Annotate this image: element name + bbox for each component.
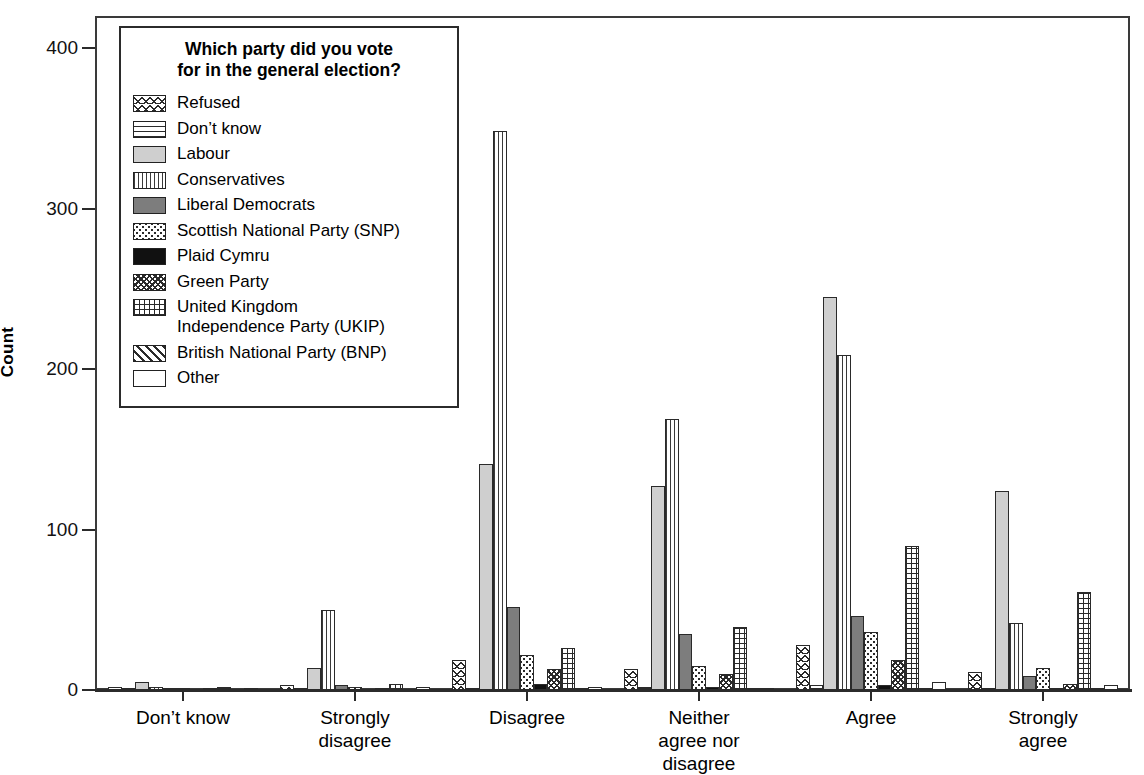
legend-title: Which party did you vote for in the gene… (133, 39, 445, 81)
legend-item[interactable]: Plaid Cymru (133, 246, 445, 266)
legend-item-label: Green Party (177, 272, 269, 292)
y-tick-label: 100 (0, 519, 78, 541)
legend-item-label: British National Party (BNP) (177, 343, 387, 363)
x-tick-mark (870, 690, 872, 701)
legend-item-label: Conservatives (177, 170, 285, 190)
y-tick-label: 200 (0, 358, 78, 380)
legend-item-label: Plaid Cymru (177, 246, 270, 266)
legend-title-line-1: Which party did you vote (185, 39, 393, 59)
y-tick-label: 0 (0, 679, 78, 701)
legend-swatch-icon (133, 146, 166, 163)
legend-item-label: Scottish National Party (SNP) (177, 221, 400, 241)
legend-swatch-icon (133, 274, 166, 291)
x-tick-mark (1042, 690, 1044, 701)
x-category-label: Disagree (432, 706, 622, 729)
legend-item[interactable]: British National Party (BNP) (133, 343, 445, 363)
x-axis-baseline (95, 689, 1132, 692)
legend-title-line-2: for in the general election? (177, 60, 401, 80)
legend-swatch-icon (133, 223, 166, 240)
legend-item-label: Labour (177, 144, 230, 164)
legend-swatch-icon (133, 299, 166, 316)
legend-item[interactable]: Refused (133, 93, 445, 113)
legend-item[interactable]: Liberal Democrats (133, 195, 445, 215)
legend-swatch-icon (133, 370, 166, 387)
y-tick-mark (82, 529, 95, 531)
legend-swatch-icon (133, 172, 166, 189)
legend-item-label: Other (177, 368, 220, 388)
legend-box: Which party did you vote for in the gene… (119, 26, 459, 408)
legend-item[interactable]: United KingdomIndependence Party (UKIP) (133, 297, 445, 337)
legend-item[interactable]: Other (133, 368, 445, 388)
y-tick-mark (82, 47, 95, 49)
legend-item[interactable]: Green Party (133, 272, 445, 292)
legend-item-label: Liberal Democrats (177, 195, 315, 215)
y-tick-mark (82, 368, 95, 370)
x-tick-mark (354, 690, 356, 701)
x-category-label: Strongly agree (948, 706, 1138, 752)
legend-item-label: Don’t know (177, 119, 261, 139)
legend-swatch-icon (133, 197, 166, 214)
legend-item-label: Refused (177, 93, 240, 113)
y-tick-label: 300 (0, 198, 78, 220)
legend-swatch-icon (133, 121, 166, 138)
legend-item[interactable]: Labour (133, 144, 445, 164)
legend-item-label: United KingdomIndependence Party (UKIP) (177, 297, 385, 337)
y-tick-mark (82, 208, 95, 210)
x-tick-mark (182, 690, 184, 701)
legend-swatch-icon (133, 345, 166, 362)
legend-item-list: RefusedDon’t knowLabourConservativesLibe… (133, 93, 445, 388)
legend-item[interactable]: Conservatives (133, 170, 445, 190)
x-tick-mark (698, 690, 700, 701)
y-tick-mark (82, 689, 95, 691)
x-tick-mark (526, 690, 528, 701)
x-category-label: Strongly disagree (260, 706, 450, 752)
legend-item[interactable]: Scottish National Party (SNP) (133, 221, 445, 241)
legend-item-label-line-2: Independence Party (UKIP) (177, 317, 385, 336)
legend-item[interactable]: Don’t know (133, 119, 445, 139)
x-category-label: Don’t know (88, 706, 278, 729)
legend-swatch-icon (133, 95, 166, 112)
x-category-label: Neither agree nor disagree (604, 706, 794, 775)
legend-swatch-icon (133, 248, 166, 265)
x-category-label: Agree (776, 706, 966, 729)
y-tick-label: 400 (0, 37, 78, 59)
